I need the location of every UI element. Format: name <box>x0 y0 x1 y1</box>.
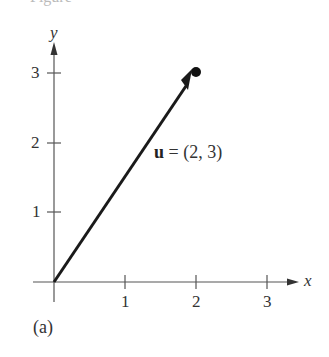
vector-name: u <box>154 142 164 162</box>
x-axis <box>33 275 299 289</box>
x-axis-label: x <box>304 272 312 289</box>
x-tick-label-3: 3 <box>263 293 272 310</box>
y-tick-label-2: 2 <box>31 134 40 151</box>
vector-equals: = <box>164 142 183 162</box>
vector-label: u = (2, 3) <box>154 142 222 163</box>
x-tick-label-1: 1 <box>121 293 130 310</box>
y-axis-label: y <box>50 24 58 41</box>
vector-u <box>54 67 201 282</box>
y-axis-arrow-icon <box>51 42 58 55</box>
y-axis <box>47 42 61 302</box>
y-tick-label-3: 3 <box>31 64 40 81</box>
y-tick-label-1: 1 <box>32 203 41 220</box>
panel-label: (a) <box>33 318 53 336</box>
vector-plot <box>0 0 329 357</box>
terminal-point <box>191 67 201 77</box>
vector-components: (2, 3) <box>183 142 222 162</box>
vector-arrowhead-icon <box>181 69 192 90</box>
x-axis-arrow-icon <box>287 279 299 286</box>
x-tick-label-2: 2 <box>192 293 201 310</box>
